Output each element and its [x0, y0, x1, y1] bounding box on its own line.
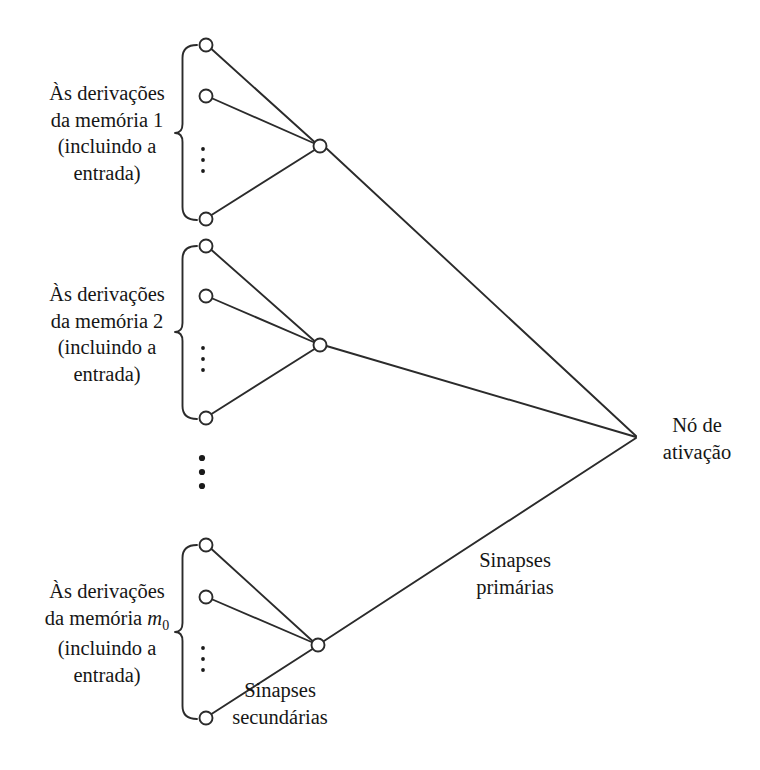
edge-g1-hub-activation: [326, 148, 636, 436]
group-2-label: Às derivações da memória 2 (incluindo a …: [0, 281, 222, 388]
edge-g2-n1-hub: [212, 250, 315, 341]
edge-g2-n2-hub: [213, 299, 314, 343]
group-1-label: Às derivações da memória 1 (incluindo a …: [0, 80, 222, 187]
input-node: [200, 412, 213, 425]
input-node: [200, 539, 213, 552]
group-3-label-line-4: entrada): [73, 664, 140, 686]
group-3-label-line-2: da memória: [45, 607, 147, 629]
diagram-canvas: Às derivações da memória 1 (incluindo a …: [0, 0, 760, 770]
hub-node-group-1: [314, 140, 327, 153]
edge-g2-hub-activation: [327, 346, 637, 437]
activation-node-label: Nó de ativação: [597, 412, 760, 465]
group-3-label-line-3: (incluindo a: [58, 637, 157, 659]
input-node: [200, 240, 213, 253]
input-node: [200, 39, 213, 52]
edge-g3-hub-activation: [324, 438, 636, 641]
ellipsis-between-groups: [199, 455, 205, 489]
group-3-label: Às derivaçõesda memória m0(incluindo aen…: [0, 578, 222, 688]
memory-symbol: m: [147, 607, 162, 629]
group-2: [175, 240, 636, 438]
primary-synapses-label: Sinapses primárias: [415, 547, 615, 600]
edge-g1-n2-hub: [213, 99, 314, 144]
edge-g2-n3-hub: [212, 349, 315, 414]
memory-subscript: 0: [162, 618, 169, 633]
edge-g3-n2-hub: [213, 600, 312, 643]
edge-g1-n1-hub: [212, 49, 315, 142]
group-1-secondary-edges: [212, 49, 315, 215]
group-3-label-line-1: Às derivações: [49, 580, 165, 602]
edge-g3-n1-hub: [212, 549, 313, 641]
edge-g1-n3-hub: [212, 150, 315, 215]
group-2-secondary-edges: [212, 250, 315, 414]
hub-node-group-2: [314, 339, 327, 352]
secondary-synapses-label: Sinapses secundárias: [180, 677, 380, 730]
group-1: [175, 39, 636, 437]
hub-node-group-3: [312, 639, 325, 652]
input-node: [200, 213, 213, 226]
